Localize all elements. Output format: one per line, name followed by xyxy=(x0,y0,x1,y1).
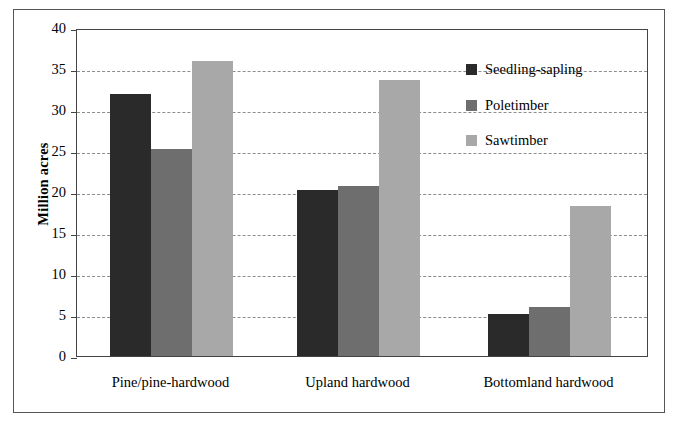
y-axis-tick xyxy=(71,153,77,154)
bar xyxy=(192,61,233,356)
bar xyxy=(151,149,192,356)
y-axis-tick-label: 5 xyxy=(26,308,66,323)
bar xyxy=(338,186,379,356)
y-axis-tick-label: 10 xyxy=(26,267,66,282)
y-axis-tick-label: 25 xyxy=(26,144,66,159)
legend-item-label: Poletimber xyxy=(485,97,549,114)
y-axis-tick-label: 35 xyxy=(26,62,66,77)
legend-item: Sawtimber xyxy=(466,131,548,149)
bar xyxy=(297,190,338,356)
y-axis-tick-label: 0 xyxy=(26,349,66,364)
bar xyxy=(379,80,420,356)
gridline xyxy=(77,112,647,113)
y-axis-tick-label: 20 xyxy=(26,185,66,200)
legend-item-label: Sawtimber xyxy=(485,132,548,149)
y-axis-tick xyxy=(71,317,77,318)
bar xyxy=(488,314,529,356)
bar xyxy=(570,206,611,356)
y-axis-tick xyxy=(71,235,77,236)
chart-figure: Million acres 0510152025303540 Pine/pine… xyxy=(0,0,677,424)
plot-inner xyxy=(77,30,647,356)
bar xyxy=(110,94,151,356)
legend-item: Poletimber xyxy=(466,96,549,114)
bar xyxy=(529,307,570,356)
plot-area xyxy=(76,29,648,357)
y-axis-tick-label: 15 xyxy=(26,226,66,241)
legend-item-label: Seedling-sapling xyxy=(485,61,582,78)
x-axis-category-label: Upland hardwood xyxy=(248,374,468,391)
y-axis-tick-label: 40 xyxy=(26,21,66,36)
y-axis-tick xyxy=(71,30,77,31)
legend-item: Seedling-sapling xyxy=(466,60,582,78)
legend-swatch-icon xyxy=(466,64,477,75)
y-axis-tick xyxy=(71,71,77,72)
legend-swatch-icon xyxy=(466,100,477,111)
y-axis-tick xyxy=(71,112,77,113)
legend-swatch-icon xyxy=(466,135,477,146)
y-axis-tick-label: 30 xyxy=(26,103,66,118)
y-axis-tick xyxy=(71,194,77,195)
y-axis-tick xyxy=(71,276,77,277)
y-axis-tick xyxy=(71,358,77,359)
x-axis-category-label: Bottomland hardwood xyxy=(439,374,659,391)
